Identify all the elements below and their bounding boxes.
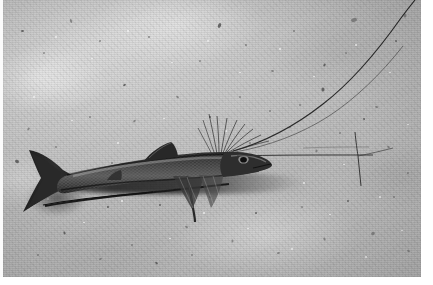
plate-margin-bottom xyxy=(0,277,433,285)
plate-margin-left xyxy=(0,0,3,285)
photo-page: A slender tripodfish stands on the seafl… xyxy=(0,0,433,285)
plate-margin-right xyxy=(421,0,433,285)
photograph-plate xyxy=(3,0,421,277)
photo-vignette xyxy=(3,0,421,277)
